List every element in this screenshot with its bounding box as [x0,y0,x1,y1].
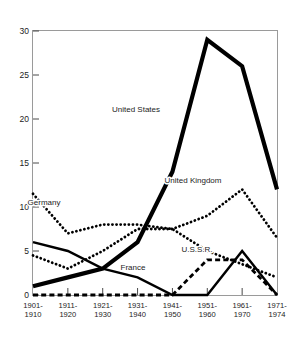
x-tick-label: 1961- [232,301,252,310]
x-tick-label: 1950 [164,310,181,319]
x-tick-label: 1930 [94,310,111,319]
y-tick-label: 30 [20,26,30,36]
y-tick-label: 20 [20,114,30,124]
y-tick-label: 15 [20,158,30,168]
x-tick-label: 1960 [199,310,216,319]
series-label-france: France [121,263,146,272]
y-tick-label: 5 [24,246,29,256]
series-label-germany: Germany [28,198,61,207]
x-tick-label: 1951- [198,301,218,310]
y-tick-label: 25 [20,70,30,80]
nobel-prizes-line-chart: (Number of Prizes) 051015202530 1901-191… [0,0,290,337]
x-tick-label: 1970 [234,310,251,319]
x-tick-label: 1901- [23,301,43,310]
chart-canvas: 051015202530 1901-19101911-19201921-1930… [0,0,290,337]
x-tick-label: 1920 [59,310,76,319]
x-tick-label: 1931- [128,301,148,310]
series-label-u-s-s-r: U.S.S.R. [181,245,212,254]
series-label-united-states: United States [112,105,160,114]
series-label-united-kingdom: United Kingdom [165,176,222,185]
x-tick-label: 1910 [25,310,42,319]
x-tick-label: 1941- [163,301,183,310]
chart-background [0,0,290,337]
y-tick-label: 0 [24,290,29,300]
x-tick-label: 1921- [93,301,113,310]
x-tick-label: 1940 [129,310,146,319]
x-tick-label: 1911- [58,301,77,310]
x-tick-label: 1974 [269,310,286,319]
x-tick-label: 1971- [267,301,287,310]
